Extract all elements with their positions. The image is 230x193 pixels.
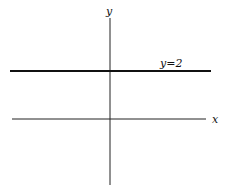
x-axis-label: x xyxy=(212,113,219,126)
coordinate-plane: y x y=2 xyxy=(0,0,230,193)
y-axis-label: y xyxy=(105,5,113,18)
line-label: y=2 xyxy=(159,57,182,70)
